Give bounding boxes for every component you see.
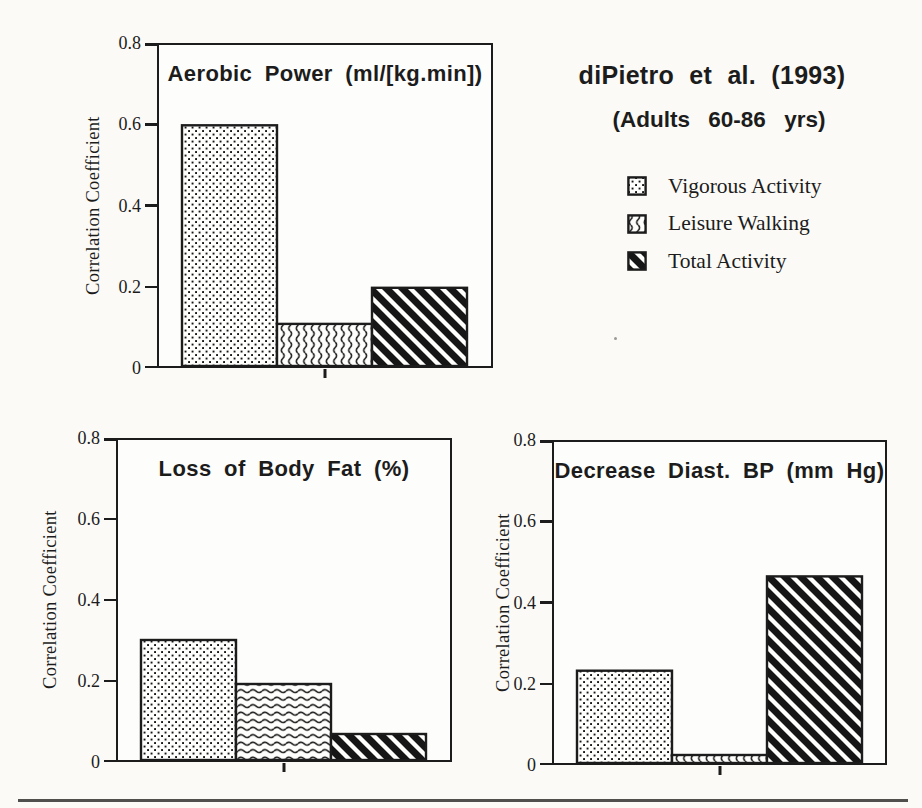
y-tick-mark — [540, 520, 552, 523]
y-axis-label: Correlation Coefficient — [40, 438, 61, 762]
bars-svg — [159, 45, 491, 366]
bar-leisure-walking — [236, 684, 331, 760]
y-tick-mark — [104, 680, 116, 683]
bar-leisure-walking — [672, 755, 767, 763]
plot-area: Loss of Body Fat (%) — [116, 438, 452, 762]
y-tick-mark — [145, 366, 157, 369]
y-tick-mark — [104, 438, 116, 441]
legend-item-total-activity: Total Activity — [627, 251, 821, 271]
legend: Vigorous Activity Leisure Walking Total … — [627, 176, 821, 289]
chart-loss-of-body-fat: Correlation Coefficient 00.20.40.60.8 Lo… — [116, 438, 452, 762]
bar-vigorous-activity — [182, 125, 277, 366]
y-axis-label: Correlation Coefficient — [493, 440, 514, 765]
dots-pattern-swatch-icon — [627, 176, 647, 196]
chart-decrease-diastolic-bp: Correlation Coefficient 00.20.40.60.8 De… — [552, 440, 887, 765]
legend-item-leisure-walking: Leisure Walking — [627, 214, 821, 234]
bars-svg — [118, 440, 450, 760]
y-tick-mark — [540, 763, 552, 766]
bar-total-activity — [331, 734, 426, 760]
footer-rule — [18, 799, 908, 802]
population-label: (Adults 60-86 yrs) — [551, 107, 873, 133]
bar-total-activity — [767, 576, 862, 763]
y-tick-mark — [540, 440, 552, 443]
legend-label: Total Activity — [668, 249, 787, 274]
y-tick-mark — [540, 683, 552, 686]
squiggle-pattern-swatch-icon — [627, 214, 647, 234]
y-tick-mark — [145, 123, 157, 126]
chart-aerobic-power: Correlation Coefficient 00.20.40.60.8 Ae… — [157, 43, 493, 368]
figure-header: diPietro et al. (1993) (Adults 60-86 yrs… — [551, 61, 873, 133]
plot-area: Decrease Diast. BP (mm Hg) — [552, 440, 887, 765]
legend-label: Leisure Walking — [668, 211, 810, 236]
y-tick-mark — [104, 760, 116, 763]
y-tick-mark — [145, 286, 157, 289]
y-tick-mark — [104, 518, 116, 521]
bar-vigorous-activity — [577, 671, 672, 763]
study-citation: diPietro et al. (1993) — [551, 61, 873, 90]
bar-vigorous-activity — [141, 640, 236, 760]
y-tick-mark — [104, 599, 116, 602]
legend-label: Vigorous Activity — [668, 174, 821, 199]
y-tick-mark — [145, 204, 157, 207]
plot-area: Aerobic Power (ml/[kg.min]) — [157, 43, 493, 368]
x-axis-tick — [283, 763, 286, 772]
bar-total-activity — [372, 288, 467, 366]
diagonal-pattern-swatch-icon — [627, 251, 647, 271]
bar-leisure-walking — [277, 324, 372, 366]
y-tick-mark — [540, 601, 552, 604]
bars-svg — [554, 442, 885, 763]
legend-item-vigorous-activity: Vigorous Activity — [627, 176, 821, 196]
figure-page: diPietro et al. (1993) (Adults 60-86 yrs… — [0, 0, 922, 808]
y-tick-mark — [145, 43, 157, 46]
y-axis-label: Correlation Coefficient — [83, 43, 104, 368]
x-axis-tick — [324, 369, 327, 378]
scan-speck — [614, 337, 617, 340]
x-axis-tick — [718, 766, 721, 775]
